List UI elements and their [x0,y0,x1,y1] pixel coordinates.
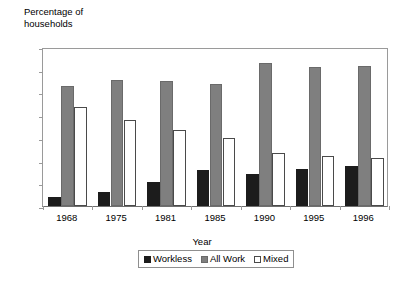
x-axis-tick-label: 1975 [106,212,127,223]
y-axis-tick-mark [39,117,43,118]
y-axis-tick-mark [39,94,43,95]
bar-workless-1990 [246,174,259,206]
bar-workless-1995 [296,169,309,206]
legend-label: Mixed [263,253,288,265]
bar-all-work-1995 [309,67,322,206]
x-axis-title: Year [0,236,404,247]
x-axis-tick-label: 1981 [155,212,176,223]
y-axis-tick-mark [39,185,43,186]
x-axis-tick-mark [241,206,242,210]
legend-entry-all-work: All Work [201,253,245,265]
bar-all-work-1968 [61,86,74,206]
bar-workless-1985 [197,170,210,206]
x-axis-tick-mark [340,206,341,210]
x-axis-tick-label: 1996 [353,212,374,223]
bar-all-work-1990 [259,63,272,206]
y-axis-tick-mark [39,72,43,73]
chart-legend: WorklessAll WorkMixed [138,250,294,268]
bar-workless-1968 [48,197,61,206]
x-axis-tick-mark [389,206,390,210]
y-axis-tick-mark [39,163,43,164]
y-axis-title: Percentage of households [24,6,83,30]
bar-mixed-1985 [223,138,236,206]
bar-all-work-1996 [358,66,371,206]
bar-mixed-1968 [74,107,87,206]
legend-swatch-icon [144,256,151,263]
bar-workless-1981 [147,182,160,206]
legend-entry-workless: Workless [144,253,192,265]
bar-mixed-1990 [272,153,285,206]
legend-swatch-icon [201,256,208,263]
x-axis-tick-mark [142,206,143,210]
plot-area [42,48,388,207]
bar-all-work-1975 [111,80,124,206]
bar-mixed-1996 [371,158,384,206]
bar-mixed-1995 [322,156,335,206]
x-axis-tick-label: 1990 [254,212,275,223]
legend-entry-mixed: Mixed [254,253,288,265]
bar-chart: Percentage of households 010203040506070… [0,0,404,291]
bar-mixed-1981 [173,130,186,206]
x-axis-tick-label: 1968 [56,212,77,223]
x-axis-tick-mark [290,206,291,210]
bar-all-work-1985 [210,84,223,206]
x-axis-tick-mark [92,206,93,210]
legend-label: Workless [153,253,192,265]
bar-all-work-1981 [160,81,173,206]
legend-swatch-icon [254,256,261,263]
x-axis-tick-mark [43,206,44,210]
legend-label: All Work [210,253,245,265]
x-axis-tick-label: 1995 [303,212,324,223]
y-axis-tick-mark [39,49,43,50]
bar-mixed-1975 [124,120,137,206]
x-axis-tick-label: 1985 [204,212,225,223]
bar-workless-1975 [98,192,111,206]
y-axis-tick-mark [39,140,43,141]
bar-workless-1996 [345,166,358,206]
x-axis-tick-mark [191,206,192,210]
